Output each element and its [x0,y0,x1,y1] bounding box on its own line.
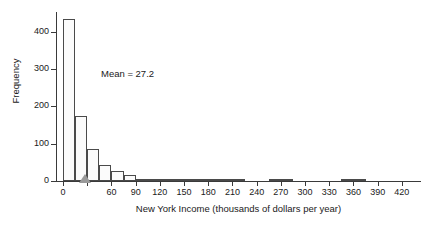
y-axis-tick [51,144,56,145]
y-axis-tick [51,181,56,182]
y-axis-title: Frequency [11,41,21,121]
histogram-bar [281,179,293,181]
y-axis-tick [51,32,56,33]
histogram-bar [353,179,365,181]
x-axis-title: New York Income (thousands of dollars pe… [57,203,420,214]
y-axis-tick [51,106,56,107]
x-axis-tick [160,182,161,186]
x-axis-tick-label: 0 [48,188,78,197]
histogram-bar [269,179,281,181]
histogram-bar [196,179,208,181]
histogram-bar [148,179,160,181]
histogram-figure: 0100200300400 Frequency 0609012015018021… [0,0,441,236]
x-axis-tick [184,182,185,186]
x-axis-tick [232,182,233,186]
histogram-bar [184,179,196,181]
y-axis-tick-label: 100 [34,139,49,148]
x-axis-tick [136,182,137,186]
x-axis-tick [305,182,306,186]
x-axis-tick [111,182,112,186]
histogram-bar [208,179,220,181]
histogram-bar [160,179,172,181]
histogram-bar [172,179,184,181]
y-axis-tick-label: 0 [44,176,49,185]
y-axis-tick-labels: 0100200300400 [0,0,49,236]
histogram-bar [111,171,123,181]
y-axis-tick [51,69,56,70]
mean-annotation-label: Mean = 27.2 [101,68,154,79]
y-axis-tick-label: 400 [34,27,49,36]
histogram-bar [220,179,232,181]
x-axis-tick [378,182,379,186]
x-axis-tick [281,182,282,186]
histogram-bar [75,116,87,181]
x-axis-tick [329,182,330,186]
x-axis-tick [257,182,258,186]
y-axis-tick-label: 200 [34,101,49,110]
mean-marker-triangle-icon [79,174,91,183]
y-axis-tick-label: 300 [34,64,49,73]
x-axis-tick [402,182,403,186]
histogram-bar [63,19,75,181]
histogram-bar [232,179,244,181]
x-axis-tick [63,182,64,186]
x-axis-tick [353,182,354,186]
histogram-bar [124,175,136,181]
histogram-bar [99,165,111,181]
histogram-bar [136,179,148,181]
plot-area [57,13,420,181]
x-axis-tick-label: 420 [387,188,417,197]
histogram-bar [341,179,353,181]
x-axis-tick [208,182,209,186]
